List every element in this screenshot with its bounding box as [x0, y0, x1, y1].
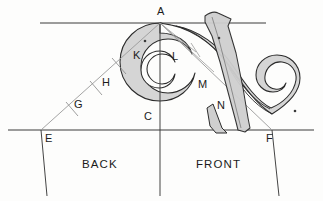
- tick-mark-h: [90, 81, 102, 95]
- left-volute-centre-dot: [144, 40, 147, 43]
- point-label-c: C: [144, 111, 152, 122]
- region-label-front: FRONT: [196, 159, 241, 171]
- point-label-h: H: [102, 77, 110, 88]
- point-label-f: F: [266, 133, 273, 144]
- left-volute-eye: [141, 51, 175, 88]
- left-volute-shape: [120, 23, 195, 101]
- point-label-m: M: [198, 79, 207, 90]
- point-label-k: K: [133, 50, 141, 61]
- right-volute-centre-dot: [294, 110, 297, 113]
- drawing-canvas: A C E F G H K L M N BACK FRONT: [0, 0, 323, 201]
- construction-drawing-svg: [0, 0, 323, 201]
- point-label-n: N: [217, 100, 225, 111]
- template-centre-dot: [218, 37, 221, 40]
- region-label-back: BACK: [82, 159, 118, 171]
- guide-right-leg-edge: [272, 130, 279, 196]
- point-label-a: A: [157, 6, 165, 17]
- point-label-g: G: [74, 99, 83, 110]
- point-label-l: L: [172, 51, 178, 62]
- point-label-e: E: [45, 133, 53, 144]
